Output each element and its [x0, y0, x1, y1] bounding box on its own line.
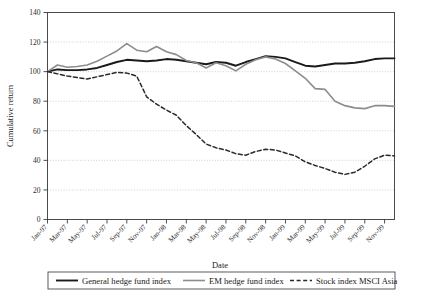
y-tick-label-20: 20	[33, 186, 41, 195]
legend-label-1: EM hedge fund index	[209, 276, 284, 286]
chart-background	[0, 0, 423, 295]
chart-legend: General hedge fund indexEM hedge fund in…	[48, 272, 398, 289]
chart-figure: 020406080100120140 Jan-97Mar-97May-97Jul…	[0, 0, 423, 295]
y-tick-label-0: 0	[37, 215, 41, 224]
y-tick-label-60: 60	[33, 127, 41, 136]
legend-label-2: Stock index MSCI Asia	[316, 276, 398, 286]
y-tick-label-120: 120	[29, 38, 41, 47]
y-axis-title: Cumulative return	[5, 84, 15, 147]
x-axis-title: Date	[212, 260, 228, 270]
y-tick-label-80: 80	[33, 97, 41, 106]
legend-label-0: General hedge fund index	[82, 276, 172, 286]
y-tick-label-40: 40	[33, 156, 41, 165]
y-tick-label-140: 140	[29, 8, 41, 17]
cumulative-return-line-chart: 020406080100120140 Jan-97Mar-97May-97Jul…	[0, 0, 423, 295]
y-tick-label-100: 100	[29, 67, 41, 76]
